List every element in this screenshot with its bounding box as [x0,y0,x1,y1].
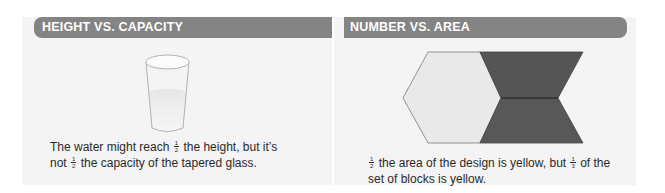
fraction: 12 [369,156,374,169]
fraction-numerator: 1 [71,156,76,163]
fraction: 13 [570,156,575,169]
fraction-denominator: 2 [71,163,76,169]
fraction-denominator: 2 [174,147,179,153]
fraction-numerator: 1 [174,140,179,147]
number-vs-area-caption: 12 the area of the design is yellow, but… [368,155,628,187]
fraction: 12 [71,156,76,169]
caption-text: the capacity of the tapered glass. [81,156,257,170]
fraction-numerator: 1 [570,156,575,163]
caption-text: The water might reach [50,140,169,154]
fraction-numerator: 1 [369,156,374,163]
caption-text: the area of the design is yellow, but [379,156,566,170]
fraction-denominator: 2 [369,163,374,169]
fraction-denominator: 3 [570,163,575,169]
fraction: 12 [174,140,179,153]
height-vs-capacity-caption: The water might reach 12 the height, but… [50,139,290,171]
